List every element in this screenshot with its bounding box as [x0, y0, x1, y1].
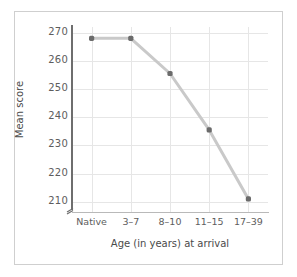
x-axis-spine: [72, 212, 269, 213]
plot-area: [72, 27, 268, 213]
y-tick-label: 250: [28, 82, 68, 93]
y-axis-spine: [71, 25, 73, 210]
y-tick-label: 260: [28, 54, 68, 65]
x-tick-label: 17–39: [218, 216, 278, 227]
y-tick-label: 210: [28, 195, 68, 206]
y-tick-label: 240: [28, 110, 68, 121]
series-line-chart: [72, 27, 268, 213]
data-point-marker: [246, 196, 251, 201]
data-point-marker: [207, 127, 212, 132]
data-point-marker: [128, 36, 133, 41]
x-axis-tick-labels: Native3–78–1011–1517–39: [72, 216, 268, 230]
data-point-marker: [167, 71, 172, 76]
data-point-marker: [89, 36, 94, 41]
y-axis-tick-labels: 270260250240230220210: [22, 27, 68, 213]
x-axis-title: Age (in years) at arrival: [72, 238, 268, 249]
series-line: [92, 38, 249, 199]
y-tick-label: 230: [28, 138, 68, 149]
y-tick-label: 270: [28, 26, 68, 37]
chart-figure: 270260250240230220210 Native3–78–1011–15…: [0, 0, 297, 277]
y-axis-title: Mean score: [14, 60, 25, 160]
axis-break-icon: [64, 200, 80, 216]
y-tick-label: 220: [28, 167, 68, 178]
